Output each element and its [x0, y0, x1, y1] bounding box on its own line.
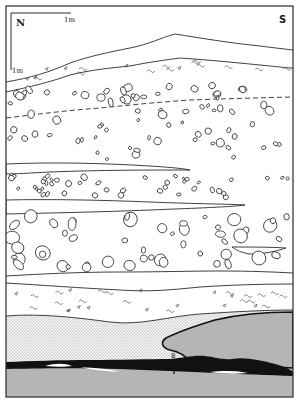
silt-mark	[87, 306, 90, 309]
surface-line	[6, 34, 293, 82]
pebble	[209, 187, 215, 194]
silt-mark	[105, 292, 113, 295]
pebble	[95, 180, 102, 186]
pebble	[156, 222, 169, 235]
pebble	[103, 87, 111, 95]
pebble	[165, 82, 173, 91]
pebble	[261, 145, 267, 150]
layer-boundary	[6, 271, 293, 276]
pebble	[142, 175, 147, 180]
pebble	[190, 84, 199, 93]
pebble	[55, 178, 60, 182]
pebble	[61, 190, 68, 197]
silt-mark	[166, 68, 174, 71]
pebble	[80, 91, 89, 100]
pebble	[197, 180, 201, 184]
sample-marker: 8	[171, 352, 175, 360]
silt-mark	[255, 68, 263, 71]
pebble	[204, 127, 212, 135]
pebble	[16, 186, 20, 190]
pebble	[197, 251, 203, 257]
pebble	[45, 191, 51, 197]
pebble	[202, 215, 207, 219]
pebble	[213, 260, 220, 268]
silt-mark	[176, 304, 179, 307]
pebble	[48, 217, 59, 229]
pebble	[137, 118, 141, 122]
sand-lens-upper	[6, 163, 190, 174]
pebble	[227, 213, 241, 227]
pebble	[224, 259, 232, 270]
pebble	[31, 130, 38, 138]
pebble	[40, 187, 44, 191]
silt-mark	[258, 294, 266, 297]
silt-mark	[230, 294, 233, 297]
pebble	[249, 248, 268, 268]
pebble	[80, 137, 83, 142]
pebble	[284, 213, 290, 220]
silt-mark	[31, 294, 39, 297]
pebble	[170, 231, 175, 236]
pebble	[280, 176, 284, 180]
scale-horizontal-label: 1m	[64, 16, 75, 24]
pebble	[97, 94, 105, 101]
silt-mark	[123, 300, 131, 303]
pebble	[157, 188, 164, 194]
pebble	[10, 126, 18, 134]
pebble	[173, 174, 178, 179]
pebble	[82, 263, 91, 272]
pebble	[250, 122, 254, 127]
pebble	[182, 109, 189, 114]
pebble	[21, 135, 29, 143]
pebble	[72, 91, 77, 96]
pebble	[45, 181, 48, 186]
silt-mark	[223, 304, 226, 307]
pebble	[191, 185, 198, 192]
pebble	[275, 235, 283, 242]
pebble	[182, 177, 185, 181]
pebble	[225, 145, 231, 151]
silt-mark	[279, 295, 287, 298]
pebble	[122, 210, 139, 228]
pebble	[141, 247, 146, 254]
silt-mark	[271, 292, 279, 295]
silt-mark	[77, 306, 80, 309]
pebble	[140, 255, 148, 263]
layer-boundary-dashed	[6, 97, 293, 118]
pebble	[148, 254, 155, 261]
silt-mark	[79, 67, 87, 70]
pebble	[166, 122, 172, 128]
stratigraphic-section: 8 N S 1m 1m	[0, 0, 298, 401]
silt-mark	[225, 66, 233, 69]
pebble	[179, 220, 187, 226]
pebble	[215, 138, 225, 148]
pebble	[286, 177, 290, 181]
pebble	[68, 217, 76, 230]
pebble	[231, 155, 236, 160]
pebble	[49, 177, 53, 181]
north-label: N	[16, 17, 25, 28]
pebble	[210, 142, 214, 145]
pebble	[27, 110, 35, 119]
silt-mark	[147, 70, 155, 73]
pebble	[260, 101, 267, 109]
silt-mark	[55, 302, 63, 305]
pebble	[78, 181, 83, 185]
pebble	[131, 93, 135, 98]
pebble	[104, 187, 110, 192]
pebble	[212, 109, 216, 112]
silt-mark	[247, 300, 255, 303]
pebble	[75, 138, 80, 144]
silt-mark	[29, 307, 37, 310]
silt-mark	[213, 291, 216, 294]
pebble	[273, 141, 279, 146]
pebble	[123, 259, 137, 272]
pebble	[228, 108, 235, 115]
silt-mark	[45, 67, 48, 70]
pebble	[108, 97, 114, 107]
pebble	[141, 95, 147, 99]
silt-mark	[145, 308, 148, 311]
south-label: S	[279, 14, 286, 25]
pebble	[122, 238, 129, 244]
pebble	[226, 127, 231, 133]
